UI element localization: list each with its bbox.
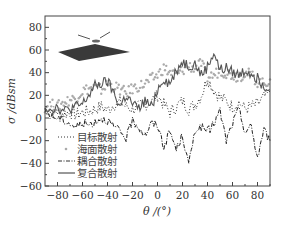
sea-scatter-point [134,83,136,85]
x-tick-label: 80 [251,189,264,201]
sea-scatter-point [119,93,121,95]
y-axis-title: σ /dBsm [5,78,18,124]
sea-scatter-point [66,96,68,98]
sea-scatter-point [49,101,51,103]
sea-scatter-point [163,63,165,65]
x-tick-label: 40 [201,189,214,201]
sea-scatter-point [165,65,167,67]
x-tick-label: 20 [176,189,189,201]
y-tick-label: 20 [29,89,42,101]
sea-scatter-point [254,83,256,85]
sea-surface-icon [58,44,130,61]
sea-scatter-point [138,90,140,92]
sea-scatter-point [129,92,131,94]
sea-scatter-point [74,98,76,100]
sea-scatter-point [159,68,161,70]
sea-scatter-point [85,84,87,86]
sea-scatter-point [179,69,181,71]
x-tick-label: 0 [154,189,161,201]
sea-scatter-point [216,76,218,78]
x-tick-label: −80 [46,189,68,201]
sea-scatter-point [156,77,158,79]
sea-scatter-point [153,78,155,80]
inset-diagram [58,32,130,61]
sea-scatter-point [200,65,202,67]
sea-scatter-point [148,81,150,83]
sea-scatter-point [81,93,83,95]
y-tick-label: −40 [20,157,42,169]
legend-label: 耦合散射 [77,155,118,167]
sea-scatter-point [241,78,243,80]
x-axis-title: θ /(°) [143,205,171,218]
sea-scatter-point [214,74,216,76]
sea-scatter-point [193,70,195,72]
sea-scatter-point [189,62,191,64]
sea-scatter-point [211,77,213,79]
sea-scatter-point [58,99,60,101]
sea-scatter-point [50,105,52,107]
sea-scatter-point [226,74,228,76]
sea-scatter-point [233,78,235,80]
sea-scatter-point [158,70,160,72]
x-tick-label: −60 [71,189,93,201]
sea-scatter-point [140,80,142,82]
series-line [45,81,270,119]
y-tick-label: 60 [29,44,42,56]
y-tick-label: 80 [29,21,42,33]
sea-scatter-point [199,58,201,60]
sea-scatter-point [124,90,126,92]
sea-scatter-point [139,87,141,89]
sea-scatter-point [116,87,118,89]
y-tick-label: 40 [29,66,42,78]
sea-scatter-point [248,67,250,69]
sea-scatter-point [115,81,117,83]
x-tick-label: 60 [226,189,239,201]
sea-scatter-point [161,74,163,76]
sea-scatter-point [130,83,132,85]
y-tick-label: 0 [35,112,42,124]
sea-scatter-point [135,87,137,89]
sea-scatter-point [215,68,217,70]
sea-scatter-point [183,73,185,75]
legend-label: 复合散射 [77,167,118,179]
sea-scatter-point [225,77,227,79]
sea-scatter-point [155,73,157,75]
sea-scatter-point [61,101,63,103]
sea-scatter-point [151,72,153,74]
x-tick-label: −40 [96,189,118,201]
sea-scatter-point [123,85,125,87]
sea-scatter-point [118,84,120,86]
sea-scatter-point [104,88,106,90]
chart: −60−40−20020406080 −80−60−40−20020406080… [0,0,285,228]
sea-scatter-point [201,60,203,62]
sea-scatter-point [131,92,133,94]
x-axis: −80−60−40−20020406080 [46,182,270,201]
sea-scatter-point [206,80,208,82]
sea-scatter-point [261,77,263,79]
series-line [45,54,270,114]
target-icon [92,40,100,43]
sea-scatter-point [70,99,72,101]
sea-scatter-point [65,102,67,104]
sea-scatter-point [181,71,183,73]
sea-scatter-point [251,70,253,72]
legend-label: 目标散射 [77,131,118,143]
sea-scatter-point [84,88,86,90]
sea-scatter-point [68,104,70,106]
y-tick-label: −60 [20,180,42,192]
sea-scatter-point [166,73,168,75]
x-tick-label: −20 [121,189,143,201]
sea-scatter-point [128,85,130,87]
sea-scatter-point [256,86,258,88]
sea-scatter-point [154,76,156,78]
sea-scatter-point [169,70,171,72]
sea-scatter-point [51,98,53,100]
incident-wave-icon [78,35,90,39]
legend-label: 海面散射 [77,143,118,155]
sea-scatter-point [209,76,211,78]
y-tick-label: −20 [20,134,42,146]
sea-scatter-point [56,101,58,103]
legend: 目标散射海面散射耦合散射复合散射 [58,131,118,179]
sea-scatter-point [224,74,226,76]
sea-scatter-point [143,86,145,88]
